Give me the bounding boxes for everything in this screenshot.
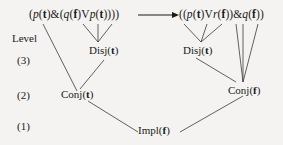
formula-antecedent: (p(t)&(q(f)∨p(t))) (p(t)&(q(f)Vp(t)))) [29,8,119,20]
edge-q-to-disj-left [83,24,98,42]
edge-disj-right-to-conj-right [196,58,236,82]
level-header: Level [12,32,37,44]
node-conj-right: Conj(f) [228,84,260,96]
edge-p-to-conj-left [43,24,77,91]
edge-conj-right-to-impl [180,96,243,132]
node-disj-left: Disj(t) [89,44,118,56]
node-disj-right: Disj(t) [183,44,212,56]
node-impl: Impl(f) [138,124,170,136]
implication-arrow-head [172,12,179,18]
edge-paren-to-conj-right [236,24,243,82]
edge-disj-left-to-conj-left [80,60,104,89]
edge-conj-left-to-impl [88,101,138,132]
node-conj-left: Conj(t) [61,88,93,100]
level-1-label: (1) [17,120,30,132]
level-2-label: (2) [17,89,30,101]
edge-q-to-conj-right [243,24,258,82]
level-3-label: (3) [17,54,30,66]
formula-consequent: ((p(t)∨r(f))&q(f)) ((p(t)Vr(f))&q(f)) [179,8,264,20]
evaluation-tree-diagram: (p(t)&(q(f)∨p(t))) (p(t)&(q(f)Vp(t)))) (… [0,0,283,145]
edge-p-to-disj-right [184,24,201,42]
edge-p2-to-disj-left [98,24,112,42]
